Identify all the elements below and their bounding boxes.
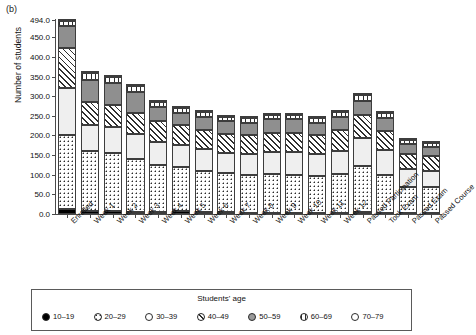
legend-item-50–59[interactable]: 50–59 <box>248 312 280 321</box>
bar-week-3 <box>126 85 144 214</box>
y-tick-label: 150.0 <box>0 151 54 160</box>
bar-segment-70–79 <box>149 100 167 102</box>
y-tick-label: 250.0 <box>0 111 54 120</box>
bar-segment-70–79 <box>285 113 303 115</box>
bar-segment-30–39 <box>81 125 99 151</box>
legend-label: 40–49 <box>208 312 229 321</box>
x-tick-mark <box>340 214 341 218</box>
legend-item-40–49[interactable]: 40–49 <box>197 312 229 321</box>
x-tick-mark <box>294 214 295 218</box>
x-tick-mark <box>181 214 182 218</box>
y-tick-label: 450.0 <box>0 33 54 42</box>
bar-segment-60–69 <box>149 102 167 107</box>
legend-item-60–69[interactable]: 60–69 <box>300 312 332 321</box>
bar-segment-30–39 <box>376 150 394 174</box>
y-tick-label: 300.0 <box>0 92 54 101</box>
bar-week-10 <box>285 114 303 214</box>
bar-segment-50–59 <box>149 107 167 121</box>
y-tick-label: 494.0 <box>0 16 54 25</box>
bar-segment-50–59 <box>195 117 213 130</box>
legend-swatch-icon <box>42 313 50 321</box>
bar-segment-30–39 <box>240 154 258 175</box>
x-tick-mark <box>385 214 386 218</box>
bar-segment-60–69 <box>58 21 76 26</box>
bar-segment-60–69 <box>195 112 213 117</box>
bar-segment-70–79 <box>331 110 349 112</box>
y-tick-mark <box>52 175 56 176</box>
bar-segment-60–69 <box>353 95 371 100</box>
bar-week-6 <box>195 112 213 214</box>
bar-segment-30–39 <box>149 142 167 166</box>
bar-segment-30–39 <box>172 145 190 167</box>
bar-segment-70–79 <box>58 19 76 21</box>
bar-week-4 <box>149 101 167 214</box>
bar-segment-70–79 <box>399 138 417 140</box>
y-tick-mark <box>52 20 56 21</box>
legend-item-30–39[interactable]: 30–39 <box>145 312 177 321</box>
legend-swatch-icon <box>300 313 308 321</box>
bar-segment-50–59 <box>263 119 281 132</box>
plot-area <box>56 20 442 214</box>
x-tick-mark <box>431 214 432 218</box>
bar-segment-50–59 <box>376 118 394 131</box>
bar-segment-30–39 <box>126 134 144 159</box>
y-tick-mark <box>52 77 56 78</box>
legend-item-20–29[interactable]: 20–29 <box>94 312 126 321</box>
legend-swatch-icon <box>351 313 359 321</box>
bar-segment-30–39 <box>217 153 235 173</box>
bar-segment-70–79 <box>172 106 190 108</box>
bar-segment-40–49 <box>422 156 440 171</box>
bar-segment-30–39 <box>104 127 122 153</box>
bar-segment-40–49 <box>195 130 213 150</box>
bar-segment-30–39 <box>353 138 371 166</box>
bar-segment-30–39 <box>58 88 76 136</box>
legend-item-10–19[interactable]: 10–19 <box>42 312 74 321</box>
bar-segment-30–39 <box>422 171 440 187</box>
bar-segment-20–29 <box>58 135 76 208</box>
y-tick-label: 350.0 <box>0 72 54 81</box>
bar-segment-40–49 <box>172 125 190 145</box>
bar-segment-50–59 <box>217 121 235 134</box>
bar-segment-60–69 <box>240 118 258 123</box>
y-tick-mark <box>52 194 56 195</box>
y-tick-label: 0.0 <box>0 210 54 219</box>
bar-segment-30–39 <box>308 154 326 176</box>
bar-segment-60–69 <box>308 118 326 123</box>
y-tick-mark <box>52 155 56 156</box>
x-tick-mark <box>363 214 364 218</box>
bar-segment-30–39 <box>263 152 281 174</box>
bar-segment-60–69 <box>172 108 190 113</box>
y-tick-mark <box>52 57 56 58</box>
bar-segment-50–59 <box>353 101 371 115</box>
bar-segment-70–79 <box>376 111 394 113</box>
x-tick-mark <box>67 214 68 218</box>
bar-segment-60–69 <box>104 77 122 83</box>
bar-segment-50–59 <box>104 83 122 105</box>
bar-segment-70–79 <box>104 75 122 77</box>
bar-segment-40–49 <box>285 133 303 153</box>
bar-segment-70–79 <box>195 110 213 112</box>
bar-segment-70–79 <box>81 71 99 73</box>
x-tick-mark <box>226 214 227 218</box>
legend-label: 50–59 <box>259 312 280 321</box>
bar-segment-40–49 <box>331 130 349 150</box>
bar-passed-participation <box>353 95 371 214</box>
bar-segment-40–49 <box>399 154 417 170</box>
bar-week-2 <box>104 76 122 214</box>
x-tick-mark <box>90 214 91 218</box>
x-tick-mark <box>135 214 136 218</box>
bar-segment-40–49 <box>263 133 281 153</box>
y-tick-mark <box>52 135 56 136</box>
bar-segment-40–49 <box>353 115 371 138</box>
bar-week-7 <box>217 116 235 214</box>
bar-enrolled <box>58 20 76 214</box>
bar-segment-60–69 <box>285 115 303 120</box>
y-tick-label: 400.0 <box>0 52 54 61</box>
bar-segment-70–79 <box>422 141 440 143</box>
x-tick-mark <box>272 214 273 218</box>
bar-segment-70–79 <box>126 84 144 86</box>
legend-item-70–79[interactable]: 70–79 <box>351 312 383 321</box>
bar-group <box>56 20 442 214</box>
bar-segment-40–49 <box>81 102 99 126</box>
